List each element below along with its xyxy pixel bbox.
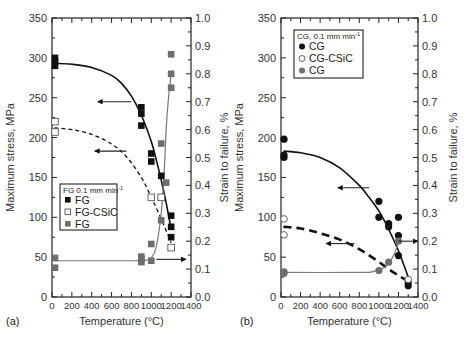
y2-axis-title: Strain to failure, % — [447, 112, 459, 202]
x-axis-title: Temperature (°C) — [79, 315, 163, 327]
y-tick-label: 350 — [258, 12, 276, 24]
legend-entry-label: FG-CSiC — [75, 206, 118, 218]
y-tick-label: 350 — [29, 12, 47, 24]
data-point — [168, 51, 175, 58]
y2-tick-label: 1.0 — [195, 12, 210, 24]
data-point — [138, 104, 145, 111]
data-point — [148, 194, 155, 201]
data-point — [395, 214, 402, 221]
data-point — [405, 282, 412, 289]
y2-tick-label: 0.8 — [195, 68, 210, 80]
y-axis-title: Maximum stress, MPa — [233, 102, 245, 212]
data-point — [168, 234, 175, 241]
data-point — [375, 198, 382, 205]
chart-panel-b: 0200400600800100012001400050100150200250… — [233, 12, 459, 327]
legend-title: CG, 0.1 mm min-1 — [297, 31, 360, 41]
data-point — [385, 223, 392, 230]
data-point — [52, 255, 59, 262]
data-point — [280, 154, 287, 161]
legend-marker-icon — [65, 221, 71, 227]
data-point — [138, 259, 145, 266]
x-tick-label: 200 — [64, 300, 80, 311]
y-tick-label: 300 — [258, 52, 276, 64]
y2-tick-label: 0.9 — [422, 40, 437, 52]
legend: CG, 0.1 mm min-1CGCG-CSiCCG — [294, 30, 363, 78]
data-point — [405, 276, 412, 283]
y2-tick-label: 0.0 — [422, 291, 437, 303]
legend-marker-icon — [65, 209, 71, 215]
data-point — [148, 150, 155, 157]
y-tick-label: 50 — [264, 251, 276, 263]
data-point — [52, 129, 59, 136]
legend-entry-label: CG — [309, 40, 325, 52]
y2-tick-label: 0.9 — [195, 40, 210, 52]
data-point — [52, 264, 59, 271]
panel-label: (a) — [6, 315, 19, 327]
y2-tick-label: 0.1 — [195, 263, 210, 275]
x-tick-label: 800 — [123, 300, 139, 311]
data-point — [375, 267, 382, 274]
legend-marker-icon — [299, 56, 305, 62]
plot-frame — [52, 18, 191, 297]
y2-tick-label: 1.0 — [422, 12, 437, 24]
y2-tick-label: 0.7 — [195, 96, 210, 108]
legend-title-superscript: -1 — [355, 31, 360, 37]
legend-title: FG 0.1 mm min-1 — [63, 185, 123, 195]
data-point — [168, 84, 175, 91]
y-axis-title: Maximum stress, MPa — [4, 102, 16, 212]
x-tick-label: 800 — [351, 300, 367, 311]
data-point — [395, 252, 402, 259]
y2-tick-label: 0.7 — [422, 96, 437, 108]
data-point — [280, 270, 287, 277]
data-point — [168, 71, 175, 78]
data-point — [168, 224, 175, 231]
data-point — [138, 122, 145, 129]
y2-tick-label: 0.2 — [195, 235, 210, 247]
x-tick-label: 400 — [84, 300, 100, 311]
data-point — [281, 232, 288, 239]
y2-tick-label: 0.5 — [195, 152, 210, 164]
y2-tick-label: 0.5 — [422, 152, 437, 164]
y-tick-label: 150 — [29, 171, 47, 183]
y2-tick-label: 0.4 — [422, 179, 437, 191]
data-point — [52, 118, 59, 125]
data-point — [52, 63, 59, 70]
y-tick-label: 150 — [258, 171, 276, 183]
y2-tick-label: 0.3 — [195, 207, 210, 219]
y2-axis-title: Strain to failure, % — [218, 112, 230, 202]
y-tick-label: 300 — [29, 52, 47, 64]
y2-tick-label: 0.4 — [195, 179, 210, 191]
data-point — [138, 110, 145, 117]
y2-tick-label: 0.0 — [195, 291, 210, 303]
data-point — [148, 241, 155, 248]
data-point — [385, 259, 392, 266]
legend-marker-icon — [299, 68, 305, 74]
data-point — [168, 212, 175, 219]
x-tick-label: 1000 — [141, 300, 162, 311]
y-tick-label: 50 — [35, 251, 47, 263]
x-tick-label: 1000 — [368, 300, 389, 311]
legend-marker-icon — [299, 44, 305, 50]
y-tick-label: 250 — [29, 92, 47, 104]
data-point — [148, 158, 155, 165]
y2-tick-label: 0.1 — [422, 263, 437, 275]
data-point — [158, 173, 165, 180]
data-point — [375, 214, 382, 221]
y-tick-label: 0 — [41, 291, 47, 303]
data-point — [163, 179, 170, 186]
chart-panel-a: 0200400600800100012001400050100150200250… — [4, 12, 230, 327]
data-point — [168, 244, 175, 251]
x-tick-label: 0 — [278, 300, 283, 311]
y-tick-label: 250 — [258, 92, 276, 104]
y-tick-label: 0 — [270, 291, 276, 303]
x-axis-title: Temperature (°C) — [307, 315, 391, 327]
y-tick-label: 100 — [29, 211, 47, 223]
legend-entry-label: CG — [309, 64, 325, 76]
data-point — [158, 217, 165, 224]
figure: 0200400600800100012001400050100150200250… — [0, 0, 465, 343]
x-tick-label: 600 — [104, 300, 120, 311]
x-tick-label: 0 — [49, 300, 54, 311]
data-point — [281, 216, 288, 223]
y-tick-label: 200 — [29, 132, 47, 144]
y-tick-label: 200 — [258, 132, 276, 144]
